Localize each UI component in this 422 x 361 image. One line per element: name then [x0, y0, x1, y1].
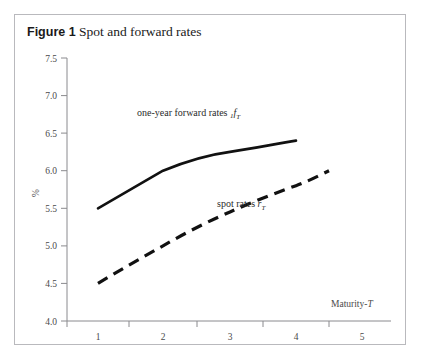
chart-plot-area: 7.5 7.0 6.5 6.0 5.5 5.0 4.5 4.0 % 1 — [15, 15, 407, 346]
spot-rates-annotation: spot rates rT — [217, 198, 266, 212]
spot-rates-annotation-text: spot rates — [217, 198, 255, 209]
x-axis-tick-labels: 1 2 3 4 5 — [96, 332, 365, 342]
y-tick-label-5: 6.5 — [45, 129, 57, 139]
y-tick-label-3: 5.5 — [45, 204, 57, 214]
x-axis-title-symbol: T — [367, 299, 373, 309]
forward-rates-annotation: one-year forward rates 1fT — [137, 107, 241, 121]
chart-svg: 7.5 7.0 6.5 6.0 5.5 5.0 4.5 4.0 % 1 — [15, 15, 407, 346]
forward-rates-annotation-text: one-year forward rates — [137, 107, 228, 118]
y-tick-label-6: 7.0 — [45, 91, 57, 101]
y-tick-label-1: 4.5 — [45, 279, 57, 289]
y-tick-label-0: 4.0 — [45, 317, 57, 327]
y-axis-title: % — [31, 189, 41, 197]
y-axis-ticks — [61, 58, 67, 321]
x-tick-label-3: 4 — [294, 332, 299, 342]
y-axis-tick-labels: 7.5 7.0 6.5 6.0 5.5 5.0 4.5 4.0 — [45, 54, 57, 327]
x-tick-label-2: 3 — [228, 332, 233, 342]
x-axis-ticks — [67, 321, 329, 327]
x-tick-label-1: 2 — [161, 332, 166, 342]
x-axis-title-text: Maturity- — [331, 299, 367, 309]
x-tick-label-4: 5 — [360, 332, 365, 342]
x-axis-title: Maturity-T — [331, 299, 373, 309]
x-tick-label-0: 1 — [96, 332, 101, 342]
figure-frame: Figure 1 Spot and forward rates 7.5 7 — [14, 14, 406, 345]
spot-rates-subscript: T — [261, 204, 266, 212]
y-tick-label-7: 7.5 — [45, 54, 57, 64]
y-tick-label-4: 6.0 — [45, 166, 57, 176]
y-tick-label-2: 5.0 — [45, 241, 57, 251]
forward-rates-subscript: T — [236, 113, 241, 121]
